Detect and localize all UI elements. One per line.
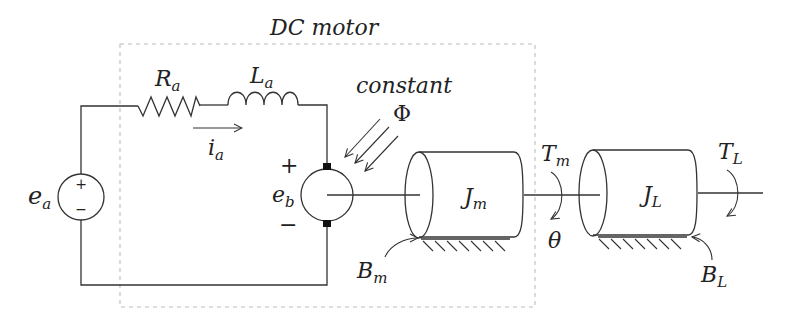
angle-theta-label: θ (548, 228, 561, 253)
resistor-ra-icon (138, 97, 200, 116)
emf-plus-sign: + (280, 153, 298, 178)
motor-damping-arrow-icon (385, 238, 418, 257)
load-damping-bl-label: BL (700, 262, 727, 291)
back-emf-eb-label: eb (272, 182, 295, 211)
inductor-la-label: La (249, 63, 274, 92)
motor-inertia-cylinder-icon (405, 152, 600, 251)
source-plus-sign: + (75, 176, 87, 192)
load-torque-tl-label: TL (718, 139, 743, 168)
dc-motor-diagram: DC motor Ra La ia + − ea + − eb constant… (0, 0, 786, 321)
current-ia-label: ia (208, 135, 224, 164)
constant-label: constant (356, 73, 452, 98)
load-inertia-jl-label: JL (639, 182, 662, 211)
source-ea-label: ea (28, 182, 51, 213)
brush-bottom-icon (323, 220, 331, 227)
motor-damping-bm-label: Bm (356, 258, 387, 287)
resistor-ra-label: Ra (154, 66, 181, 95)
flux-phi-label: Φ (393, 101, 411, 126)
load-damping-arrow-icon (692, 237, 712, 260)
motor-torque-tm-label: Tm (541, 141, 570, 170)
emf-minus-sign: − (279, 212, 297, 237)
flux-arrows-icon (345, 119, 398, 171)
dc-motor-label: DC motor (269, 15, 380, 40)
motor-inertia-jm-label: Jm (460, 184, 487, 213)
inductor-la-icon (228, 92, 298, 105)
source-minus-sign: − (75, 201, 87, 217)
brush-top-icon (323, 163, 331, 170)
